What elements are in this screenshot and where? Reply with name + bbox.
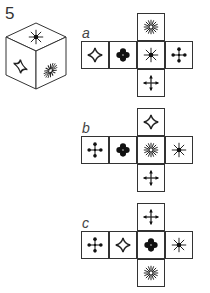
face-bottom-a: [137, 69, 165, 97]
face-top-c: [137, 203, 165, 231]
face-row-a-2: [109, 41, 137, 69]
face-top-a: [137, 13, 165, 41]
face-top-b: [137, 108, 165, 136]
face-row-b-3: [137, 136, 165, 164]
option-label-b: b: [82, 121, 90, 135]
face-row-c-4: [165, 231, 193, 259]
face-bottom-b: [137, 164, 165, 192]
face-bottom-c: [137, 259, 165, 287]
face-row-a-4: [165, 41, 193, 69]
face-row-a-1: [81, 41, 109, 69]
option-label-c: c: [82, 216, 89, 230]
face-row-c-3: [137, 231, 165, 259]
face-row-c-1: [81, 231, 109, 259]
face-row-b-4: [165, 136, 193, 164]
face-row-b-1: [81, 136, 109, 164]
face-row-a-3: [137, 41, 165, 69]
cube-top-asterisk-icon: [29, 30, 43, 44]
option-label-a: a: [82, 26, 90, 40]
reference-cube: [3, 20, 69, 92]
face-row-b-2: [109, 136, 137, 164]
face-row-c-2: [109, 231, 137, 259]
